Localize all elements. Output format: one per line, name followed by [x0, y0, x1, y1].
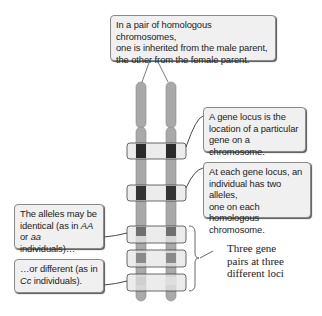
callout-identical-alleles: The alleles may be identical (as in AA o…	[14, 204, 104, 249]
allele-box	[166, 227, 176, 236]
callout-text: one on each homologous	[209, 201, 305, 224]
locus-band-2	[127, 185, 186, 201]
allele-box	[136, 144, 146, 158]
genotype-AA: AA	[81, 220, 93, 231]
callout-text: Cc individuals).	[20, 275, 98, 287]
callout-text: chromosome.	[209, 224, 305, 236]
callout-text-part: or	[20, 231, 31, 242]
allele-box	[166, 277, 176, 285]
allele-box	[166, 144, 176, 158]
callout-text: location of a particular	[209, 123, 300, 135]
callout-text: In a pair of homologous chromosomes,	[116, 19, 270, 42]
callout-gene-locus: A gene locus is the location of a partic…	[203, 107, 306, 152]
allele-box	[136, 186, 146, 200]
locus-band-5	[127, 274, 186, 291]
locus-band-3	[127, 226, 186, 243]
genotype-Cc: Cc	[20, 275, 31, 286]
callout-different-alleles: …or different (as in Cc individuals).	[14, 259, 104, 293]
callout-text: The alleles may be	[20, 208, 98, 220]
locus-band-1	[127, 143, 186, 159]
callout-text: the other from the female parent.	[116, 54, 270, 66]
callout-text: A gene locus is the	[209, 111, 300, 123]
brace-icon	[189, 226, 199, 291]
callout-text: identical (as in AA	[20, 220, 98, 232]
callout-text-part: individuals).	[31, 275, 82, 286]
callout-text: individual has two alleles,	[209, 178, 305, 201]
label-text: different loci	[227, 267, 284, 280]
allele-box	[136, 227, 146, 236]
leader-line	[186, 116, 203, 147]
locus-band-4	[127, 250, 186, 267]
callout-two-alleles: At each gene locus, an individual has tw…	[203, 162, 311, 218]
leader-line	[104, 233, 127, 237]
callout-homologous-pair: In a pair of homologous chromosomes, one…	[110, 15, 276, 61]
leader-line	[104, 281, 127, 285]
brace-leader	[200, 251, 213, 258]
allele-box	[166, 186, 176, 200]
allele-box	[136, 277, 146, 285]
allele-box	[166, 253, 176, 263]
callout-text: gene on a chromosome.	[209, 134, 300, 157]
label-text: pairs at three	[227, 255, 284, 268]
brace-label-three-gene-pairs: Three gene pairs at three different loci	[227, 242, 284, 280]
leader-line	[186, 168, 203, 188]
callout-text: one is inherited from the male parent,	[116, 42, 270, 54]
genotype-aa: aa	[31, 231, 41, 242]
callout-text: …or different (as in	[20, 263, 98, 275]
callout-text-part: identical (as in	[20, 220, 81, 231]
callout-text: At each gene locus, an	[209, 166, 305, 178]
label-text: Three gene	[227, 242, 284, 255]
callout-text-part: individuals)…	[20, 243, 75, 254]
callout-text: or aa individuals)…	[20, 231, 98, 254]
allele-box	[136, 253, 146, 263]
